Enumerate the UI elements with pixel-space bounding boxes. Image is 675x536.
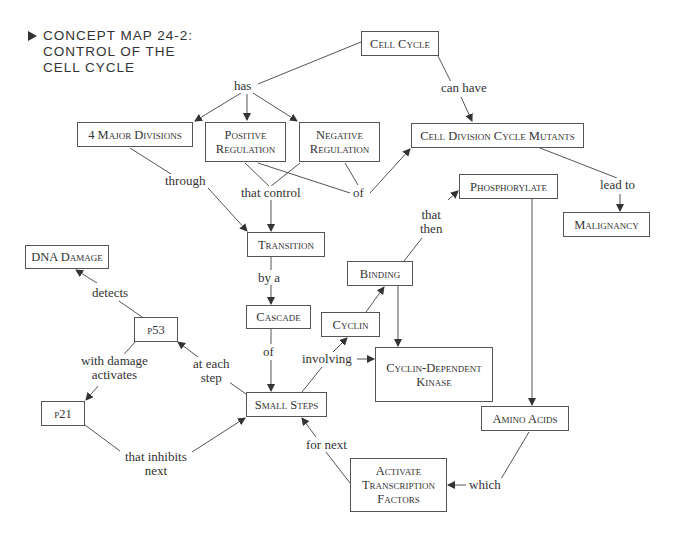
node-malignancy: Malignancy xyxy=(563,212,650,237)
link-label-by-a: by a xyxy=(257,271,281,285)
link-label-of-cdc: of xyxy=(352,186,365,200)
node-4-major-divisions: 4 Major Divisions xyxy=(77,122,193,147)
link-label-of-steps: of xyxy=(262,345,275,359)
link-label-for-next: for next xyxy=(305,438,348,452)
link-label-that-inhibits-next: that inhibits next xyxy=(124,450,188,478)
link-label-that-control: that control xyxy=(240,186,302,200)
node-binding: Binding xyxy=(347,261,413,286)
link-label-that-then: that then xyxy=(419,208,443,236)
link-label-detects: detects xyxy=(91,286,129,300)
link-label-which: which xyxy=(468,478,502,492)
node-transition: Transition xyxy=(247,232,325,257)
node-phosphorylate: Phosphorylate xyxy=(459,174,558,199)
link-label-involving: involving xyxy=(301,352,353,366)
link-label-can-have: can have xyxy=(440,81,488,95)
node-p53: p53 xyxy=(134,317,178,342)
link-label-through: through xyxy=(164,174,206,188)
node-p21: p21 xyxy=(41,401,85,426)
node-amino-acids: Amino Acids xyxy=(481,406,569,431)
node-small-steps: Small Steps xyxy=(246,392,327,417)
node-cell-cycle: Cell Cycle xyxy=(361,31,439,56)
link-label-has: has xyxy=(233,79,252,93)
node-dna-damage: DNA Damage xyxy=(25,245,109,269)
link-label-lead-to: lead to xyxy=(599,178,636,192)
node-cell-division-cycle-mutants: Cell Division Cycle Mutants xyxy=(411,123,584,148)
node-activate-transcription-factors: Activate Transcription Factors xyxy=(350,458,447,512)
node-cyclin: Cyclin xyxy=(321,312,380,337)
node-negative-regulation: Negative Regulation xyxy=(299,122,380,162)
node-positive-regulation: Positive Regulation xyxy=(205,122,286,162)
link-label-with-damage-activates: with damage activates xyxy=(80,354,149,382)
link-label-at-each-step: at each step xyxy=(192,357,230,385)
node-cascade: Cascade xyxy=(246,305,311,329)
node-cyclin-dependent-kinase: Cyclin-Dependent Kinase xyxy=(375,347,493,402)
